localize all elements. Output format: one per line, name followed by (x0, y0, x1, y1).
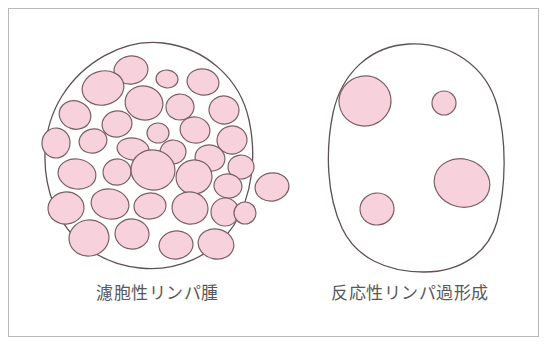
follicle-right-1 (432, 91, 456, 115)
caption-reactive-hyperplasia: 反応性リンパ過形成 (331, 279, 489, 304)
figure-root: 濾胞性リンパ腫 反応性リンパ過形成 (0, 0, 549, 357)
escaping-follicle-0 (234, 202, 256, 224)
caption-follicular-lymphoma: 濾胞性リンパ腫 (96, 279, 219, 304)
panel-reactive-hyperplasia (328, 44, 504, 272)
follicle-left-9 (147, 123, 169, 143)
panel-follicular-lymphoma (41, 42, 291, 268)
escaping-follicle-1 (253, 170, 291, 203)
